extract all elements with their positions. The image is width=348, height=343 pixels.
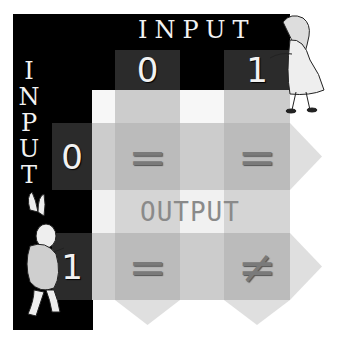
white-rabbit-figure-icon	[0, 0, 348, 343]
